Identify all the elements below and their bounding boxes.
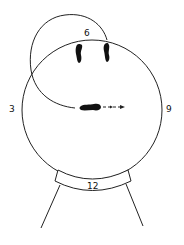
- arrow-head-icon: [120, 105, 125, 109]
- right-leg: [126, 184, 143, 226]
- left-footprint-mark: [76, 44, 83, 63]
- label-left: 3: [9, 104, 15, 114]
- clock-face-diagram: 6 3 9 12: [0, 0, 184, 245]
- right-footprint-mark: [104, 43, 110, 62]
- label-bottom: 12: [87, 181, 98, 191]
- center-blob: [80, 104, 102, 111]
- label-right: 9: [166, 104, 172, 114]
- label-top: 6: [84, 28, 90, 38]
- left-leg: [41, 185, 60, 228]
- arrow-mid-tick: [110, 106, 113, 109]
